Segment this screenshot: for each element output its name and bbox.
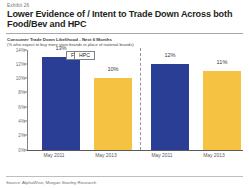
x-label-hpc-2011: May 2011 — [136, 153, 188, 158]
exhibit-label: Exhibit 26 — [7, 3, 243, 8]
group-label-hpc: HPC — [74, 51, 95, 60]
x-label-food-2013: May 2013 — [80, 153, 132, 158]
source-divider — [6, 176, 243, 177]
x-axis-labels: May 2011 May 2013 May 2011 May 2013 — [28, 153, 243, 162]
y-tick-mark — [24, 106, 27, 107]
x-label-hpc-2013: May 2013 — [188, 153, 240, 158]
exhibit-page: Exhibit 26 Lower Evidence of / Intent to… — [0, 0, 249, 188]
bar-food-2011[interactable] — [42, 57, 80, 150]
y-tick-mark — [24, 121, 27, 122]
y-tick-mark — [24, 78, 27, 79]
y-tick-mark — [24, 135, 27, 136]
page-title: Lower Evidence of / Intent to Trade Down… — [7, 9, 243, 30]
y-tick-mark — [24, 149, 27, 150]
y-axis: 0%2%4%6%8%10%12%14% — [6, 50, 26, 150]
bar-chart: 0%2%4%6%8%10%12%14% 13% 10% 12% — [6, 50, 243, 162]
bar-slot-hpc-2011: 12% — [151, 50, 189, 150]
x-label-food-2011: May 2011 — [28, 153, 80, 158]
bar-hpc-2011[interactable] — [151, 64, 189, 150]
bar-area: 13% 10% 12% 11% Food — [28, 50, 243, 150]
bar-value-hpc-2011: 12% — [151, 52, 189, 58]
bar-group-hpc: 12% 11% — [141, 50, 243, 150]
source-note: Source: AlphaWise, Morgan Stanley Resear… — [6, 180, 96, 185]
bar-slot-food-2013: 10% — [94, 50, 132, 150]
title-divider — [6, 33, 243, 34]
bar-value-hpc-2013: 11% — [203, 59, 241, 65]
bar-slot-food-2011: 13% — [42, 50, 80, 150]
bar-group-food: 13% 10% — [28, 50, 135, 150]
y-tick-mark — [24, 92, 27, 93]
bar-food-2013[interactable] — [94, 78, 132, 149]
y-tick-mark — [24, 63, 27, 64]
bar-slot-hpc-2013: 11% — [203, 50, 241, 150]
y-tick-mark — [24, 49, 27, 50]
x-axis-line — [27, 150, 243, 151]
bar-value-food-2013: 10% — [94, 66, 132, 72]
bar-hpc-2013[interactable] — [203, 71, 241, 150]
